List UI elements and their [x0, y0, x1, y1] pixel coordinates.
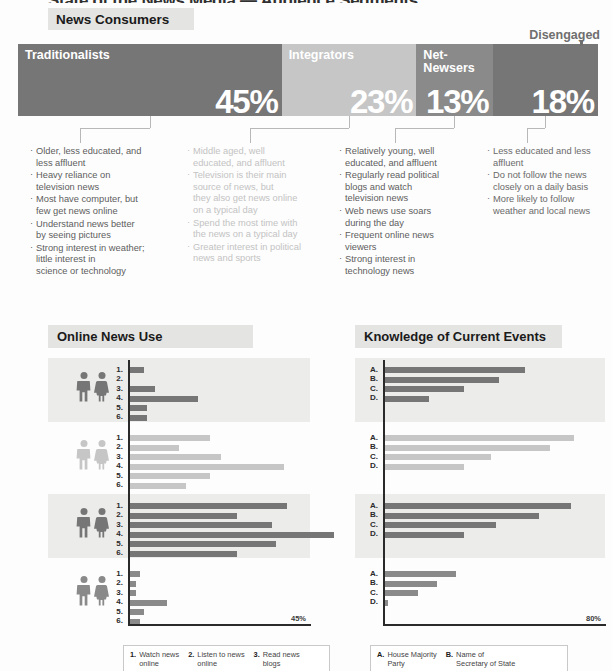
chart-row: 1.: [113, 570, 375, 579]
chart-bar: [128, 445, 179, 451]
connector-stem: [349, 116, 350, 128]
segment-traditionalists: Traditionalists45%: [18, 44, 282, 116]
person-body: [76, 381, 91, 402]
person-body: [76, 517, 91, 538]
person-body: [76, 585, 91, 606]
chart-row-label: 5.: [113, 472, 126, 481]
chart-bar: [383, 377, 499, 383]
legend-text: Listen to news online: [197, 650, 244, 670]
legend-item: A.House Majority Party: [377, 650, 437, 670]
segment-name: Traditionalists: [25, 49, 110, 62]
chart-y-axis: [383, 360, 385, 626]
chart-row: D.: [368, 530, 612, 539]
chart-row-label: 6.: [113, 413, 126, 422]
chart-row-label: 4.: [113, 394, 126, 403]
chart-row-label: A.: [368, 434, 381, 443]
chart-row: 5.: [113, 472, 375, 481]
legend-key: 2.: [188, 650, 194, 670]
chart-row-label: 4.: [113, 462, 126, 471]
people-icon-pair: [76, 576, 109, 606]
bullet-item: Heavy reliance on television news: [30, 170, 180, 193]
chart-row: 1.: [113, 434, 375, 443]
chart-row-label: 2.: [113, 375, 126, 384]
chart-row: 3.: [113, 521, 375, 530]
chart-row: C.: [368, 385, 612, 394]
description-column-disengaged: Less educated and less affluentDo not fo…: [487, 146, 607, 219]
chart-group-traditionalists: A.B.C.D.: [368, 366, 612, 404]
person-head: [80, 440, 87, 447]
person-head: [80, 508, 87, 515]
chart-row-label: 6.: [113, 617, 126, 626]
chart-row-label: D.: [368, 394, 381, 403]
chart-online-news-use: 1.2.3.4.5.6.1.2.3.4.5.6.1.2.3.4.5.6.1.2.…: [48, 358, 310, 630]
chart-bar: [128, 541, 276, 547]
chart-bar: [128, 532, 334, 538]
chart-row-label: 4.: [113, 530, 126, 539]
bullet-item: Spend the most time with the news on a t…: [187, 218, 332, 241]
chart-bar: [383, 445, 550, 451]
chart-row-label: 2.: [113, 443, 126, 452]
legend-text: Watch news online: [139, 650, 179, 670]
chart-row-label: B.: [368, 375, 381, 384]
chart-row-label: 5.: [113, 540, 126, 549]
segment-percent: 45%: [215, 84, 277, 116]
online-news-use-title: Online News Use: [48, 325, 253, 348]
person-female-icon: [94, 576, 109, 606]
chart-row: B.: [368, 443, 612, 452]
chart-row: A.: [368, 366, 612, 375]
chart-row: 4.: [113, 462, 375, 471]
chart-row-label: 5.: [113, 608, 126, 617]
chart-bar: [128, 483, 186, 489]
chart-x-axis: [128, 624, 311, 626]
bullet-item: Greater interest in political news and s…: [187, 242, 332, 265]
chart-axis-max-label: 45%: [291, 614, 306, 623]
chart-group-disengaged: 1.2.3.4.5.6.: [113, 570, 375, 627]
chart-row-label: 3.: [113, 589, 126, 598]
chart-row: 1.: [113, 366, 375, 375]
segment-name: Net- Newsers: [423, 49, 492, 75]
chart-group-net-newsers: 1.2.3.4.5.6.: [113, 502, 375, 559]
chart-row: 4.: [113, 530, 375, 539]
chart-bar: [383, 435, 574, 441]
chart-x-axis: [383, 624, 606, 626]
chart-bar: [128, 513, 237, 519]
legend-item: 1.Watch news online: [130, 650, 179, 670]
segment-disengaged: 18%: [493, 44, 598, 116]
chart-row-label: 1.: [113, 434, 126, 443]
chart-row: 4.: [113, 394, 375, 403]
legend-key: A.: [377, 650, 384, 670]
person-female-icon: [94, 372, 109, 402]
person-head: [98, 576, 105, 583]
chart-knowledge-current-events: A.B.C.D.A.B.C.D.A.B.C.D.A.B.C.D.80%: [355, 358, 605, 630]
person-body: [94, 585, 109, 606]
chart-bar: [383, 464, 464, 470]
chart-row: D.: [368, 598, 612, 607]
chart-row: 6.: [113, 481, 375, 490]
chart-row: C.: [368, 589, 612, 598]
chart-row-label: 3.: [113, 385, 126, 394]
bullet-list-disengaged: Less educated and less affluentDo not fo…: [487, 146, 607, 218]
chart-bar: [383, 454, 491, 460]
chart-row: A.: [368, 570, 612, 579]
chart-row-label: 3.: [113, 453, 126, 462]
chart-bar: [128, 551, 237, 557]
chart-row: 5.: [113, 540, 375, 549]
person-head: [98, 508, 105, 515]
person-female-icon: [94, 440, 109, 470]
segment-name: Integrators: [289, 49, 354, 62]
connector-drop: [395, 128, 396, 143]
chart-bar: [128, 522, 272, 528]
person-male-icon: [76, 440, 91, 470]
connector-stem: [545, 116, 546, 128]
chart-row-label: C.: [368, 385, 381, 394]
knowledge-of-current-events-title: Knowledge of Current Events: [355, 325, 562, 348]
chart-bar: [383, 396, 429, 402]
chart-row: 5.: [113, 608, 375, 617]
bullet-list-traditionalists: Older, less educated, and less affluentH…: [30, 146, 180, 278]
chart-row: 5.: [113, 404, 375, 413]
person-head: [80, 576, 87, 583]
chart-row-label: 4.: [113, 598, 126, 607]
chart-bar: [383, 532, 464, 538]
bullet-item: Middle aged, well educated, and affluent: [187, 146, 332, 169]
chart-row-label: B.: [368, 443, 381, 452]
